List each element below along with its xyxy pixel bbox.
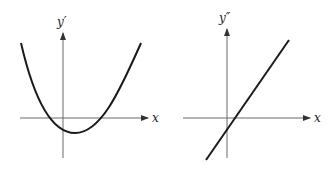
left-x-label: x <box>152 111 159 125</box>
left-parabola-curve <box>21 43 141 133</box>
right-x-label: x <box>314 111 321 125</box>
left-y-label: y′ <box>56 15 67 29</box>
right-plot: x y″ <box>183 11 321 160</box>
right-y-label: y″ <box>218 11 231 25</box>
left-plot: x y′ <box>20 15 159 158</box>
figure: x y′ x y″ <box>0 0 330 169</box>
right-linear-curve <box>206 40 289 160</box>
